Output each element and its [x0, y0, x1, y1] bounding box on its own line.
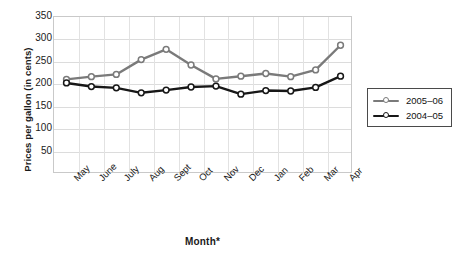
y-axis-tick-labels: 35030025020015010050	[18, 0, 52, 200]
x-axis-tick-labels: MayJuneJulyAugSeptOctNovDecJanFebMarApr	[53, 176, 352, 228]
y-axis-tick-label: 100	[35, 123, 52, 133]
data-point-marker	[138, 90, 144, 96]
legend-item-label: 2004–05	[406, 110, 443, 121]
data-point-marker	[238, 91, 244, 97]
data-point-marker	[64, 80, 70, 86]
series-layer	[54, 17, 353, 174]
data-point-marker	[163, 46, 169, 52]
legend-item-label: 2005–06	[406, 95, 443, 106]
y-axis-tick-label: 50	[41, 146, 52, 156]
series-line	[66, 45, 340, 79]
data-point-marker	[313, 85, 319, 91]
x-axis-tick-label: July	[122, 176, 129, 183]
legend-swatch-icon	[373, 96, 399, 106]
series-line	[66, 76, 340, 94]
chart-legend: 2005–062004–05	[367, 88, 452, 127]
x-axis-tick-label: Sept	[172, 176, 179, 183]
data-point-marker	[188, 62, 194, 68]
x-axis-tick-label: Jan	[272, 176, 279, 183]
x-axis-title: Month*	[53, 236, 352, 247]
data-point-marker	[88, 74, 94, 80]
legend-swatch-icon	[373, 111, 399, 121]
y-axis-tick-label: 150	[35, 101, 52, 111]
data-point-marker	[213, 83, 219, 89]
line-chart: Prices per gallon (in cents) 35030025020…	[0, 0, 460, 262]
data-point-marker	[263, 71, 269, 77]
data-point-marker	[338, 42, 344, 48]
y-axis-tick-label: 300	[35, 33, 52, 43]
y-axis-tick-label: 350	[35, 11, 52, 21]
data-point-marker	[288, 88, 294, 94]
y-axis-tick-label: 250	[35, 56, 52, 66]
x-axis-tick-label: Nov	[222, 176, 229, 183]
y-axis-tick-label: 200	[35, 78, 52, 88]
x-axis-tick-label: Apr	[347, 176, 354, 183]
data-point-marker	[288, 74, 294, 80]
data-point-marker	[138, 57, 144, 63]
data-point-marker	[113, 85, 119, 91]
x-axis-tick-label: Oct	[197, 176, 204, 183]
data-point-marker	[163, 87, 169, 93]
data-point-marker	[213, 76, 219, 82]
x-axis-tick-label: May	[72, 176, 79, 183]
x-axis-tick-label: Feb	[297, 176, 304, 183]
x-axis-tick-label: Mar	[322, 176, 329, 183]
data-point-marker	[313, 67, 319, 73]
x-axis-tick-label: June	[97, 176, 104, 183]
x-axis-tick-label: Dec	[247, 176, 254, 183]
plot-inner	[54, 17, 351, 172]
data-point-marker	[263, 88, 269, 94]
data-point-marker	[188, 84, 194, 90]
data-point-marker	[338, 73, 344, 79]
x-axis-tick-label: Aug	[147, 176, 154, 183]
legend-item[interactable]: 2004–05	[368, 108, 451, 123]
data-point-marker	[113, 72, 119, 78]
data-point-marker	[238, 73, 244, 79]
plot-area	[53, 16, 352, 173]
data-point-marker	[88, 84, 94, 90]
legend-item[interactable]: 2005–06	[368, 93, 451, 108]
